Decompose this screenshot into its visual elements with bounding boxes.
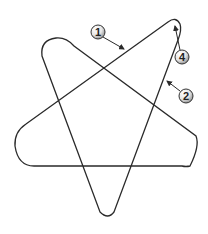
callout-1: 1: [91, 25, 124, 49]
callout-2: 2: [167, 81, 193, 103]
callout-1-arrow: [103, 37, 124, 49]
pentagram-diagram: 1 4 2: [0, 0, 208, 234]
callout-1-label: 1: [95, 26, 101, 38]
callout-2-label: 2: [183, 90, 189, 102]
callout-4-label: 4: [179, 51, 186, 63]
diagram-canvas: 1 4 2: [0, 0, 208, 234]
pentagram-curve: [15, 19, 197, 216]
callout-2-arrow: [167, 81, 180, 91]
callout-4: 4: [175, 26, 189, 64]
